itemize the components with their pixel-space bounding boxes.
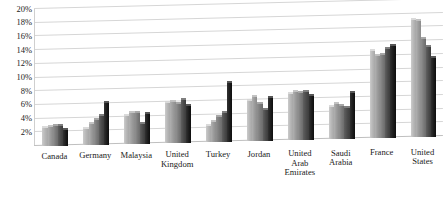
y-axis-tick-label: 12%	[16, 59, 32, 68]
bar-group	[329, 2, 355, 139]
y-axis-tick-label: 2%	[21, 128, 32, 137]
bar-group	[42, 9, 68, 146]
bar-face	[104, 103, 109, 145]
bar	[145, 114, 150, 143]
bar-face	[186, 106, 191, 143]
bar-group	[288, 3, 314, 140]
bar-face	[390, 46, 395, 137]
y-axis: 2%4%6%8%10%12%14%16%18%20%	[0, 0, 34, 150]
y-axis-tick-label: 4%	[21, 114, 32, 123]
bar-group	[206, 5, 232, 142]
y-axis-tick-label: 8%	[21, 87, 32, 96]
y-axis-tick-label: 6%	[21, 100, 32, 109]
bar-group	[370, 1, 396, 138]
bar-face	[63, 130, 68, 146]
bar-group	[83, 8, 109, 145]
x-axis-labels: CanadaGermanyMalaysiaUnited KingdomTurke…	[34, 146, 443, 224]
x-axis-tick-label: United States	[396, 148, 447, 167]
bar	[63, 130, 68, 146]
plot-area	[34, 9, 443, 146]
bar	[350, 93, 355, 138]
y-axis-tick-label: 10%	[16, 73, 32, 82]
bar-group	[411, 0, 437, 137]
y-axis-tick-label: 14%	[16, 46, 32, 55]
y-axis-tick-label: 16%	[16, 32, 32, 41]
bar	[104, 103, 109, 145]
bar-face	[309, 96, 314, 140]
bar-face	[268, 98, 273, 140]
bar	[431, 58, 436, 137]
bar-chart: 2%4%6%8%10%12%14%16%18%20% CanadaGermany…	[0, 0, 447, 224]
bar	[390, 46, 395, 137]
y-axis-tick-label: 20%	[16, 5, 32, 14]
bar	[268, 98, 273, 140]
bar	[227, 83, 232, 142]
bar-face	[145, 114, 150, 143]
bar-groups	[34, 9, 443, 146]
y-axis-tick-label: 18%	[16, 18, 32, 27]
bar-face	[227, 83, 232, 142]
bar	[186, 106, 191, 143]
bar-face	[431, 58, 436, 137]
bar-group	[247, 4, 273, 141]
bar-face	[350, 93, 355, 138]
bar-group	[165, 6, 191, 143]
bar-group	[124, 7, 150, 144]
bar	[309, 96, 314, 140]
